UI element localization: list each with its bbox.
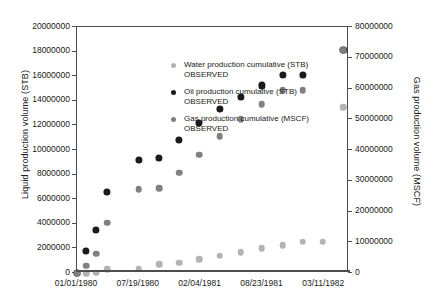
x-axis-tick-label: 08/23/1981 xyxy=(231,278,291,288)
y-axis-right-tick-label: 80000000 xyxy=(355,21,415,31)
data-point xyxy=(136,265,143,272)
data-point xyxy=(176,259,183,266)
data-point xyxy=(259,245,266,252)
y-axis-left-tick-label: 16000000 xyxy=(20,70,70,80)
y-axis-right-tick-label: 20000000 xyxy=(355,205,415,215)
y-axis-right-tickmark xyxy=(348,149,352,150)
data-point xyxy=(156,261,163,268)
data-point xyxy=(196,151,203,158)
x-axis-tick-label: 03/11/1982 xyxy=(293,278,353,288)
data-point xyxy=(279,242,286,249)
y-axis-right-tick-label: 40000000 xyxy=(355,144,415,154)
data-point xyxy=(340,47,347,54)
y-axis-left-tick-label: 14000000 xyxy=(20,94,70,104)
legend-marker-icon xyxy=(171,90,176,95)
y-axis-left-tick-label: 18000000 xyxy=(20,45,70,55)
data-point xyxy=(217,252,224,259)
data-point xyxy=(93,226,100,233)
y-axis-right-tickmark xyxy=(348,57,352,58)
chart-legend: Water production cumulative (STB)OBSERVE… xyxy=(170,60,380,141)
legend-series-name: Water production cumulative (STB) xyxy=(184,60,380,70)
y-axis-left-tick-label: 8000000 xyxy=(20,168,70,178)
legend-series-sublabel: OBSERVED xyxy=(184,124,380,134)
data-point xyxy=(196,256,203,263)
y-axis-left-tick-label: 12000000 xyxy=(20,119,70,129)
y-axis-left-tick-label: 6000000 xyxy=(20,193,70,203)
data-point xyxy=(136,186,143,193)
y-axis-right-tick-label: 30000000 xyxy=(355,174,415,184)
data-point xyxy=(103,188,110,195)
legend-series-name: Oil production cumulative (STB) xyxy=(184,87,380,97)
data-point xyxy=(156,185,163,192)
y-axis-left-tick-label: 4000000 xyxy=(20,217,70,227)
data-point xyxy=(83,262,90,269)
y-axis-right-tick-label: 0 xyxy=(355,267,415,277)
legend-series-name: Gas production cumulative (MSCF) xyxy=(184,114,380,124)
x-axis-tick-label: 07/19/1980 xyxy=(108,278,168,288)
legend-entry: Water production cumulative (STB)OBSERVE… xyxy=(170,60,380,80)
data-point xyxy=(238,249,245,256)
y-axis-right-tickmark xyxy=(348,26,352,27)
y-axis-right-tickmark xyxy=(348,241,352,242)
y-axis-left-tick-label: 10000000 xyxy=(20,144,70,154)
data-point xyxy=(104,220,111,227)
chart-figure: Liquid production volume (STB) Gas produ… xyxy=(0,0,438,303)
legend-series-sublabel: OBSERVED xyxy=(184,70,380,80)
data-point xyxy=(83,270,90,277)
y-axis-left-tick-label: 2000000 xyxy=(20,242,70,252)
data-point xyxy=(93,250,100,257)
data-point xyxy=(299,238,306,245)
legend-entry: Oil production cumulative (STB)OBSERVED xyxy=(170,87,380,107)
legend-series-sublabel: OBSERVED xyxy=(184,97,380,107)
data-point xyxy=(104,266,111,273)
legend-marker-icon xyxy=(171,117,176,122)
data-point xyxy=(74,270,81,277)
data-point xyxy=(319,238,326,245)
y-axis-right-tickmark xyxy=(348,272,352,273)
data-point xyxy=(135,156,142,163)
y-axis-left-tick-label: 20000000 xyxy=(20,21,70,31)
data-point xyxy=(155,154,162,161)
legend-marker-icon xyxy=(171,63,176,68)
plot-area: Water production cumulative (STB)OBSERVE… xyxy=(76,26,348,272)
y-axis-right-tick-label: 10000000 xyxy=(355,236,415,246)
y-axis-right-tickmark xyxy=(348,180,352,181)
data-point xyxy=(176,169,183,176)
y-axis-right-tickmark xyxy=(348,211,352,212)
data-point xyxy=(93,269,100,276)
y-axis-left-tick-label: 0 xyxy=(20,267,70,277)
legend-entry: Gas production cumulative (MSCF)OBSERVED xyxy=(170,114,380,134)
data-point xyxy=(83,248,90,255)
x-axis-tick-label: 02/04/1981 xyxy=(170,278,230,288)
x-axis-tick-label: 01/01/1980 xyxy=(46,278,106,288)
